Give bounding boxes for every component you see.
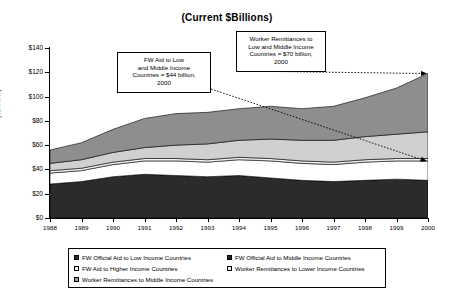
legend-label: FW Official Aid to Middle Income Countri… xyxy=(235,254,351,261)
annotation-line: Worker Remittances to xyxy=(240,35,322,43)
y-axis-title: ($Billions) xyxy=(0,89,1,118)
annotation-remittances: Worker Remittances toLow and Middle Inco… xyxy=(236,31,326,72)
legend-swatch xyxy=(74,277,79,282)
legend-swatch xyxy=(74,255,79,260)
x-tick-mark xyxy=(428,218,429,222)
x-tick-mark xyxy=(302,218,303,222)
x-tick-mark xyxy=(271,218,272,222)
chart-figure: (Current $Billions) ($Billions) $0$20$40… xyxy=(0,0,454,297)
legend-swatch xyxy=(227,255,232,260)
x-tick-mark xyxy=(365,218,366,222)
y-tick-label: $60 xyxy=(2,141,43,148)
y-tick-label: $20 xyxy=(2,190,43,197)
plot-area xyxy=(50,48,428,218)
annotation-fw-aid: FW Aid to Lowand Middle IncomeCountries … xyxy=(117,52,211,93)
legend-grid: FW Official Aid to Low Income CountriesF… xyxy=(74,252,380,285)
stacked-area-svg xyxy=(50,48,428,218)
annotation-line: Countries = $44 billion, xyxy=(121,71,207,79)
x-tick-label: 2000 xyxy=(410,224,446,231)
y-tick-label: $0 xyxy=(2,214,43,221)
y-tick-label: $40 xyxy=(2,165,43,172)
legend-item[interactable]: FW Aid to Higher Income Countries xyxy=(74,263,227,274)
area-series-0 xyxy=(50,174,428,218)
annotation-line: 2000 xyxy=(240,58,322,66)
x-tick-mark xyxy=(50,218,51,222)
y-tick-label: $120 xyxy=(2,68,43,75)
annotation-line: and Middle Income xyxy=(121,64,207,72)
y-tick-label: $140 xyxy=(2,44,43,51)
legend-item[interactable]: FW Official Aid to Middle Income Countri… xyxy=(227,252,380,263)
x-tick-mark xyxy=(239,218,240,222)
y-tick-label: $100 xyxy=(2,93,43,100)
legend-item[interactable]: Worker Remittances to Middle Income Coun… xyxy=(74,274,227,285)
x-tick-mark xyxy=(334,218,335,222)
legend-item[interactable]: Worker Remittances to Lower Income Count… xyxy=(227,263,380,274)
y-tick-label: $80 xyxy=(2,117,43,124)
legend-swatch xyxy=(74,266,79,271)
x-tick-mark xyxy=(113,218,114,222)
x-tick-mark xyxy=(208,218,209,222)
chart-legend: FW Official Aid to Low Income CountriesF… xyxy=(68,248,386,288)
chart-title: (Current $Billions) xyxy=(0,12,454,23)
annotation-line: FW Aid to Low xyxy=(121,56,207,64)
annotation-line: 2000 xyxy=(121,79,207,87)
legend-label: FW Aid to Higher Income Countries xyxy=(82,265,178,272)
legend-swatch xyxy=(227,266,232,271)
legend-label: Worker Remittances to Lower Income Count… xyxy=(235,265,365,272)
x-tick-mark xyxy=(82,218,83,222)
x-tick-mark xyxy=(176,218,177,222)
legend-label: FW Official Aid to Low Income Countries xyxy=(82,254,191,261)
x-tick-mark xyxy=(145,218,146,222)
legend-label: Worker Remittances to Middle Income Coun… xyxy=(82,276,213,283)
annotation-line: Countries = $70 billion, xyxy=(240,50,322,58)
annotation-line: Low and Middle Income xyxy=(240,43,322,51)
x-tick-mark xyxy=(397,218,398,222)
legend-item[interactable]: FW Official Aid to Low Income Countries xyxy=(74,252,227,263)
